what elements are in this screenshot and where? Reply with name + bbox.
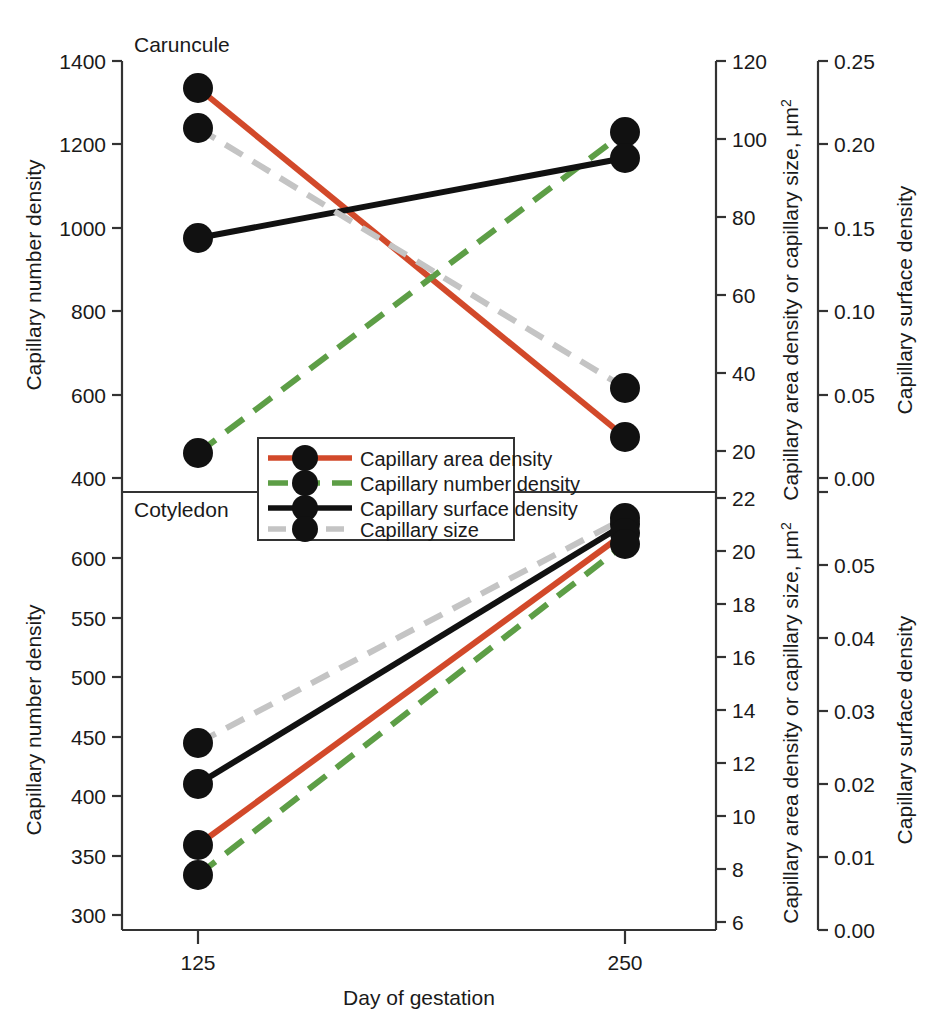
cotyledon-left-tick-500: 500 (71, 666, 106, 689)
figure-container: 1400 1200 1000 800 600 400 Capillary num… (0, 0, 943, 1022)
cotyledon-mid-tick-12: 12 (732, 752, 755, 775)
caruncule-left-tick-1200: 1200 (59, 133, 106, 156)
cotyledon-left-tick-300: 300 (71, 904, 106, 927)
caruncule-right-tick-010: 0.10 (834, 300, 875, 323)
cotyledon-mid-tick-22: 22 (732, 487, 755, 510)
cotyledon-mid-tick-10: 10 (732, 805, 755, 828)
data-point (183, 860, 213, 890)
caruncule-left-tick-1400: 1400 (59, 50, 106, 73)
caruncule-right-axis-title: Capillary surface density (893, 185, 916, 414)
cotyledon-right-tick-002: 0.02 (834, 773, 875, 796)
legend-item-capillary-size[interactable]: Capillary size (268, 516, 479, 542)
caruncule-mid-tick-100: 100 (732, 128, 767, 151)
svg-text:Capillary area density or capi: Capillary area density or capillary size… (778, 99, 802, 501)
caruncule-right-tick-005: 0.05 (834, 384, 875, 407)
caruncule-mid-tick-60: 60 (732, 284, 755, 307)
caruncule-mid-tick-80: 80 (732, 206, 755, 229)
caruncule-mid-axis-title-text: Capillary area density or capillary size… (779, 137, 802, 501)
cotyledon-left-tick-400: 400 (71, 785, 106, 808)
cotyledon-mid-axis-title-text: Capillary area density or capillary size… (779, 560, 802, 924)
caruncule-mid-tick-40: 40 (732, 362, 755, 385)
x-tick-label-125: 125 (180, 951, 215, 974)
cotyledon-mid-axis-title-sup: 2 (778, 522, 794, 530)
cotyledon-panel-label: Cotyledon (134, 498, 229, 521)
x-axis-title: Day of gestation (343, 986, 495, 1009)
data-point (183, 223, 213, 253)
cotyledon-right-axis-title: Capillary surface density (893, 615, 916, 844)
caruncule-mid-axis-title-unit: µm (779, 107, 802, 137)
data-point (610, 373, 640, 403)
data-point (183, 728, 213, 758)
cotyledon-right-tick-000: 0.00 (834, 919, 875, 942)
cotyledon-left-tick-350: 350 (71, 845, 106, 868)
cotyledon-left-tick-550: 550 (71, 607, 106, 630)
svg-text:Capillary area density or capi: Capillary area density or capillary size… (778, 522, 802, 924)
legend-label-capillary-size: Capillary size (360, 519, 479, 541)
data-point (610, 529, 640, 559)
cotyledon-mid-tick-20: 20 (732, 540, 755, 563)
cotyledon-mid-tick-14: 14 (732, 699, 756, 722)
legend-label-number-density: Capillary number density (360, 473, 580, 495)
caruncule-left-tick-600: 600 (71, 384, 106, 407)
caruncule-right-tick-015: 0.15 (834, 217, 875, 240)
legend-label-area-density: Capillary area density (360, 448, 552, 470)
cotyledon-mid-tick-18: 18 (732, 593, 755, 616)
caruncule-right-tick-000: 0.00 (834, 467, 875, 490)
legend-label-surface-density: Capillary surface density (360, 498, 578, 520)
cotyledon-right-tick-001: 0.01 (834, 846, 875, 869)
data-point (183, 113, 213, 143)
cotyledon-right-tick-003: 0.03 (834, 700, 875, 723)
cotyledon-mid-tick-6: 6 (732, 911, 744, 934)
legend-marker (292, 445, 318, 471)
data-point (610, 422, 640, 452)
data-point (183, 769, 213, 799)
caruncule-mid-tick-120: 120 (732, 50, 767, 73)
caruncule-left-tick-1000: 1000 (59, 217, 106, 240)
cotyledon-mid-tick-16: 16 (732, 646, 755, 669)
cotyledon-left-tick-600: 600 (71, 547, 106, 570)
cotyledon-left-axis-title: Capillary number density (22, 604, 45, 836)
data-point (610, 143, 640, 173)
caruncule-mid-axis-title: Capillary area density or capillary size… (778, 99, 802, 501)
legend-item-capillary-area-density[interactable]: Capillary area density (268, 445, 552, 471)
data-point (183, 438, 213, 468)
cotyledon-mid-axis-title-unit: µm (779, 530, 802, 560)
data-point (183, 73, 213, 103)
caruncule-mid-axis-title-sup: 2 (778, 99, 794, 107)
caruncule-panel-label: Caruncule (134, 33, 230, 56)
caruncule-left-axis-title: Capillary number density (22, 159, 45, 391)
data-point (610, 117, 640, 147)
caruncule-right-tick-025: 0.25 (834, 50, 875, 73)
caruncule-mid-tick-20: 20 (732, 440, 755, 463)
caruncule-left-tick-400: 400 (71, 467, 106, 490)
cotyledon-left-tick-450: 450 (71, 726, 106, 749)
cotyledon-mid-tick-8: 8 (732, 858, 744, 881)
data-point (183, 830, 213, 860)
x-tick-label-250: 250 (607, 951, 642, 974)
cotyledon-right-tick-005: 0.05 (834, 554, 875, 577)
two-panel-line-chart: 1400 1200 1000 800 600 400 Capillary num… (0, 0, 943, 1022)
legend-marker (292, 470, 318, 496)
caruncule-right-tick-020: 0.20 (834, 133, 875, 156)
legend-marker (292, 516, 318, 542)
cotyledon-right-tick-004: 0.04 (834, 627, 875, 650)
caruncule-left-tick-800: 800 (71, 300, 106, 323)
cotyledon-mid-axis-title: Capillary area density or capillary size… (778, 522, 802, 924)
